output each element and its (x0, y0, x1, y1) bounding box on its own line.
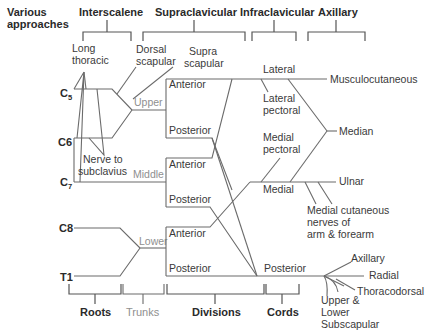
root-c7: C7 (60, 176, 72, 191)
label-ulnar: Ulnar (339, 175, 365, 187)
label-subscapular-2: Lower (321, 306, 350, 318)
label-nerve-to-subclavius-1: Nerve to (83, 153, 123, 165)
header-supraclavicular: Supraclavicular (155, 6, 238, 18)
root-c8: C8 (59, 222, 73, 234)
footer-trunks: Trunks (126, 306, 160, 318)
label-lateral-pectoral-2: pectoral (263, 104, 300, 116)
label-subscapular-3: Subscapular (321, 318, 380, 330)
header-brackets (83, 20, 365, 41)
label-lateral-pectoral-1: Lateral (263, 92, 295, 104)
label-nerve-to-subclavius-2: subclavius (78, 165, 127, 177)
root-t1: T1 (60, 271, 73, 283)
cord-posterior: Posterior (264, 262, 307, 274)
header-approaches-line2: approaches (7, 18, 69, 30)
label-dorsal-scapular-1: Dorsal (136, 43, 166, 55)
label-subscapular-1: Upper & (321, 294, 360, 306)
roots-lines (74, 89, 166, 276)
root-c6: C6 (58, 136, 72, 148)
footer-brackets (69, 284, 299, 304)
cord-lateral: Lateral (263, 63, 295, 75)
label-suprascapular-1: Supra (189, 45, 217, 57)
trunk-middle: Middle (133, 168, 164, 180)
label-axillary-nerve: Axillary (351, 252, 386, 264)
label-dorsal-scapular-2: scapular (136, 55, 176, 67)
root-c5: C5 (60, 87, 72, 102)
divisions-lines (166, 79, 257, 276)
trunk-lower: Lower (139, 235, 168, 247)
division-lower-anterior: Anterior (169, 227, 206, 239)
header-interscalene: Interscalene (79, 6, 143, 18)
division-lower-posterior: Posterior (169, 262, 212, 274)
header-axillary: Axillary (318, 6, 359, 18)
label-thoracodorsal: Thoracodorsal (357, 285, 424, 297)
header-infraclavicular: Infraclavicular (240, 6, 315, 18)
nerve-to-subclavius (89, 89, 104, 155)
label-long-thoracic-1: Long (72, 42, 96, 54)
suprascapular-nerve (133, 67, 173, 99)
label-radial: Radial (369, 269, 399, 281)
cord-medial: Medial (263, 183, 294, 195)
label-median: Median (339, 125, 374, 137)
label-medial-pectoral-1: Medial (263, 131, 294, 143)
dorsal-scapular-nerve (117, 67, 136, 94)
footer-roots: Roots (80, 306, 111, 318)
label-medial-cutaneous-3: arm & forearm (307, 228, 374, 240)
brachial-plexus-diagram: Various approaches Interscalene Supracla… (0, 0, 433, 335)
label-musculocutaneous: Musculocutaneous (330, 73, 418, 85)
footer-divisions: Divisions (192, 306, 241, 318)
header-approaches-line1: Various (7, 6, 47, 18)
label-medial-cutaneous-2: nerves of (307, 216, 350, 228)
label-medial-cutaneous-1: Medial cutaneous (307, 204, 389, 216)
division-upper-anterior: Anterior (169, 78, 206, 90)
division-middle-posterior: Posterior (169, 193, 212, 205)
division-middle-anterior: Anterior (169, 158, 206, 170)
division-upper-posterior: Posterior (169, 124, 212, 136)
label-medial-pectoral-2: pectoral (263, 143, 300, 155)
trunk-upper: Upper (134, 96, 163, 108)
footer-cords: Cords (267, 306, 299, 318)
label-long-thoracic-2: thoracic (72, 54, 109, 66)
label-suprascapular-2: scapular (184, 57, 224, 69)
